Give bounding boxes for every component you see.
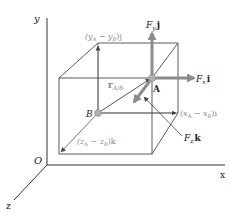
z-axis-label: z xyxy=(6,201,11,211)
force-vectors xyxy=(134,33,194,136)
fz-leader-line xyxy=(144,97,182,136)
point-b-label: B xyxy=(85,109,93,119)
fx-label: Fxi xyxy=(195,74,211,85)
r-ab-label: rA/B xyxy=(108,80,124,91)
box-edge-top-right xyxy=(152,43,178,78)
box-edge-top-left xyxy=(59,43,98,78)
force-vector-diagram: y x z O A B xyxy=(0,0,230,217)
point-a xyxy=(149,75,156,82)
point-b xyxy=(95,110,102,117)
point-a-label: A xyxy=(152,84,161,94)
fz-force-arrow xyxy=(134,78,152,102)
x-component-label: (xA − xB)i xyxy=(180,109,217,119)
z-component-label: (zA − zB)k xyxy=(77,137,116,147)
fz-label: Fzk xyxy=(183,133,201,144)
y-axis-label: y xyxy=(33,13,40,24)
y-component-label: (yA − yB)j xyxy=(85,32,122,42)
box-edge-bottom-right xyxy=(152,113,178,154)
origin-label: O xyxy=(34,155,42,166)
z-axis xyxy=(14,165,47,200)
r-ab-vector xyxy=(98,79,150,113)
fy-label: Fyj xyxy=(145,20,160,32)
x-axis-label: x xyxy=(220,170,225,180)
